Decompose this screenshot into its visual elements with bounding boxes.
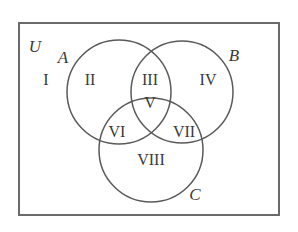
region-vi-label: VI: [109, 123, 126, 140]
venn-svg: U A B C I II III IV V VI VII VIII: [0, 0, 298, 232]
region-iii-label: III: [142, 71, 158, 88]
set-c-circle: [99, 98, 203, 202]
region-viii-label: VIII: [137, 151, 165, 168]
region-iv-label: IV: [200, 71, 217, 88]
region-v-label: V: [144, 94, 156, 111]
region-vii-label: VII: [173, 123, 195, 140]
set-b-label: B: [229, 46, 240, 65]
set-a-label: A: [57, 48, 69, 67]
region-i-label: I: [43, 71, 48, 88]
set-c-label: C: [189, 185, 201, 204]
universe-label: U: [29, 37, 43, 56]
region-ii-label: II: [85, 71, 96, 88]
venn-diagram: U A B C I II III IV V VI VII VIII: [0, 0, 298, 232]
